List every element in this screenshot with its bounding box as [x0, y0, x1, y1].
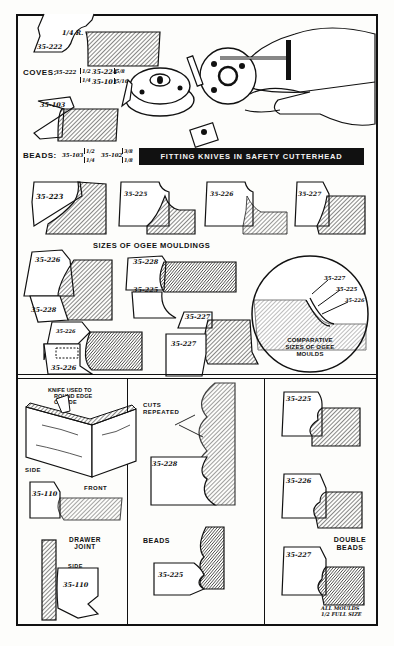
- side-label: SIDE: [25, 467, 41, 473]
- bead-code-35-103: 35-103: [62, 152, 83, 158]
- cove-example-label: 35-222: [37, 43, 62, 51]
- double-bead-label-35-226: 35-226: [286, 477, 311, 485]
- cove-size-1-4: 1/4: [80, 77, 91, 83]
- caption-line-1: COMPARATIVE: [270, 337, 350, 344]
- combo-3-bottom-label: 35-226: [51, 364, 76, 372]
- circle-label-35-227: 35-227: [324, 275, 345, 281]
- comparison-circle: [248, 252, 373, 377]
- circle-label-35-225: 35-225: [336, 286, 357, 292]
- cove-radius-note: 1/4 R.: [62, 29, 83, 37]
- hands-fitting-knife-illustration: [200, 14, 375, 147]
- double-beads-line-1: DOUBLE: [325, 536, 375, 544]
- combo-1-bottom-label: 35-228: [31, 306, 56, 314]
- ogee-sizes-heading: SIZES OF OGEE MOULDINGS: [93, 241, 210, 250]
- combo-3-top-label: 35-226: [56, 328, 75, 334]
- combo-2-top-label: 35-228: [133, 258, 158, 266]
- combo-1-top-label: 35-226: [35, 256, 60, 264]
- footnote-line-2: 1/2 FULL SIZE: [321, 612, 362, 618]
- ogee-label-35-226: 35-226: [210, 190, 233, 197]
- beads-cutter-label: 35-225: [158, 571, 183, 579]
- column-divider-2: [264, 379, 265, 626]
- front-cutter-label: 35-110: [32, 490, 57, 498]
- repeated-cutter-label: 35-228: [152, 460, 177, 468]
- bead-size-3-8: 3/8: [122, 148, 133, 154]
- ogee-profile-35-225: [117, 180, 197, 235]
- ogee-profile-35-226: [203, 180, 288, 235]
- ogee-label-35-227: 35-227: [298, 190, 321, 197]
- beads-heading: BEADS:: [23, 151, 57, 160]
- section-divider-bottom: [16, 378, 378, 379]
- scale-footnote: ALL MOULDS 1/2 FULL SIZE: [321, 606, 362, 617]
- cove-code-35-222: 35-222: [55, 69, 76, 75]
- bead-size-1-2: 1/2: [84, 148, 95, 154]
- ogee-label-35-223: 35-223: [36, 192, 63, 201]
- bead-code-35-102: 35-102: [101, 152, 122, 158]
- title-banner: FITTING KNIVES IN SAFETY CUTTERHEAD: [139, 148, 364, 165]
- front-cutter-profile: [26, 480, 126, 525]
- comparison-caption: COMPARATIVE SIZES OF OGEE MOULDS: [270, 337, 350, 358]
- section-divider-top: [16, 374, 378, 375]
- bead-size-1-4: 1/4: [84, 157, 95, 163]
- combo-4-top-label: 35-227: [185, 313, 210, 321]
- cutterhead-illustration: [120, 60, 200, 125]
- side-arrow-label: SIDE: [68, 563, 83, 569]
- cove-size-1-2: 1/2: [80, 68, 91, 74]
- repeated-cuts-profile: [145, 381, 235, 511]
- combo-2-bottom-label: 35-225: [133, 286, 158, 294]
- ogee-label-35-225: 35-225: [124, 190, 147, 197]
- circle-label-35-226: 35-226: [345, 297, 364, 303]
- bead-example-label: 35-103: [40, 101, 65, 109]
- ogee-profile-35-227: [293, 180, 373, 235]
- bead-size-1-8: 1/8: [122, 157, 133, 163]
- double-bead-label-35-225: 35-225: [286, 395, 311, 403]
- double-bead-label-35-227: 35-227: [286, 551, 311, 559]
- caption-line-3: MOULDS: [270, 351, 350, 358]
- combo-4-bottom-label: 35-227: [171, 340, 196, 348]
- caption-line-2: SIZES OF OGEE: [270, 344, 350, 351]
- ogee-profile-35-223: [30, 180, 110, 235]
- beads-profile: [150, 525, 240, 600]
- coves-heading: COVES:: [23, 68, 57, 77]
- joint-cutter-label: 35-110: [63, 581, 88, 589]
